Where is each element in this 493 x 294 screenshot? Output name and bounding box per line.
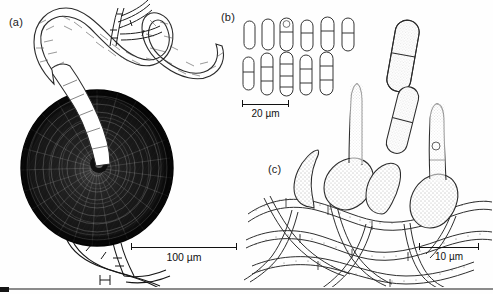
scalebar-panel-a: 100 µm xyxy=(131,243,237,263)
panel-label-b: (b) xyxy=(221,11,235,23)
figure-plate: (a) (b) (c) 100 µm 20 µm 10 µm xyxy=(0,0,493,294)
perithecium xyxy=(20,88,180,250)
figure-bottom-rule xyxy=(0,288,493,290)
panel-label-a: (a) xyxy=(9,16,23,28)
scalebar-panel-c: 10 µm xyxy=(419,243,479,262)
scalebar-label-c: 10 µm xyxy=(419,251,479,262)
scalebar-line-a xyxy=(131,243,237,250)
enlarged-conidium xyxy=(385,18,421,93)
scalebar-line-c xyxy=(419,243,479,250)
scalebar-line-b xyxy=(242,100,289,107)
hyphal-septa xyxy=(286,198,430,288)
conidiogenous-cell-4 xyxy=(410,104,458,228)
scalebar-label-b: 20 µm xyxy=(242,108,289,119)
detached-conidium xyxy=(384,85,421,156)
figure-bottom-rule-cap xyxy=(0,287,9,292)
conidiogenous-cell-1 xyxy=(294,150,319,208)
conidia-row-1 xyxy=(244,17,354,51)
branched-hypha xyxy=(110,0,162,46)
panel-label-c: (c) xyxy=(268,163,281,175)
panel-b-artwork xyxy=(243,17,421,96)
scalebar-label-a: 100 µm xyxy=(131,251,237,263)
scalebar-panel-b: 20 µm xyxy=(242,100,289,119)
conidia-row-2 xyxy=(243,52,333,96)
